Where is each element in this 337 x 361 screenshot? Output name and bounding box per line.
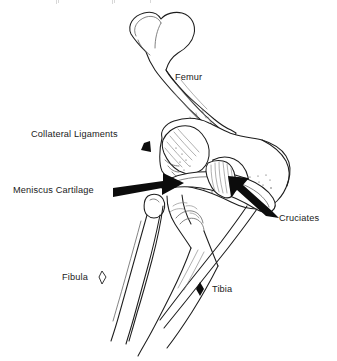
label-meniscus-cartilage: Meniscus Cartilage: [13, 185, 94, 196]
label-fibula: Fibula: [62, 272, 88, 283]
fibula-marker: [99, 271, 106, 284]
top-edge-artifact: [56, 0, 151, 4]
label-collateral-ligaments: Collateral Ligaments: [31, 129, 118, 140]
knee-anatomy-drawing: [0, 0, 337, 361]
tibia-bone: [138, 195, 257, 356]
label-femur: Femur: [175, 72, 202, 83]
label-tibia: Tibia: [212, 284, 232, 295]
collateral-ligaments-marker: [141, 141, 151, 152]
knee-anatomy-figure: Femur Collateral Ligaments Meniscus Cart…: [0, 0, 337, 361]
label-cruciates: Cruciates: [279, 213, 319, 224]
